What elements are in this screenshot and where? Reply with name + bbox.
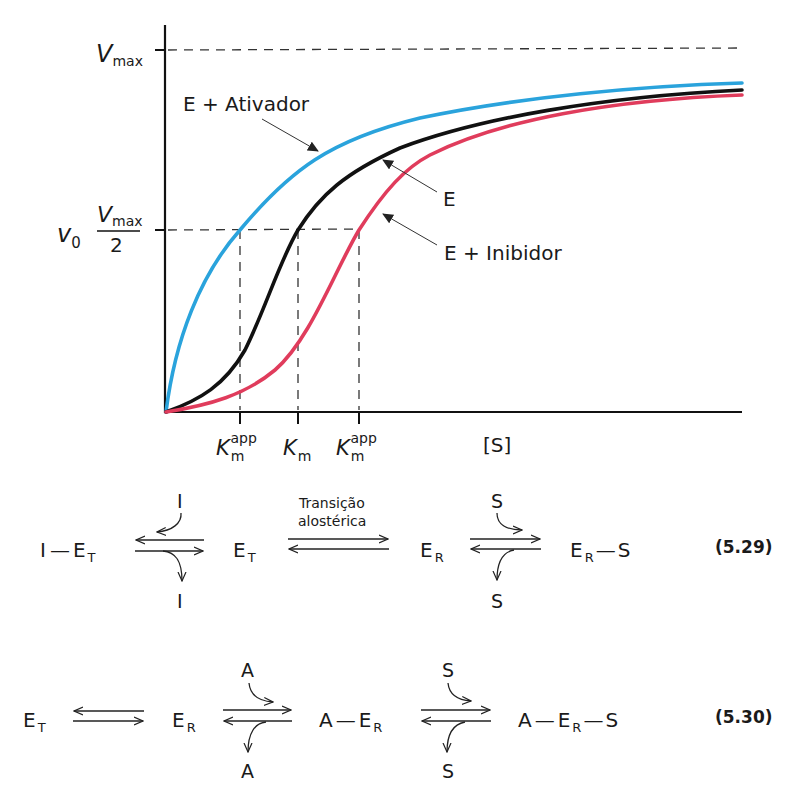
species-i-et: I—ET (40, 538, 96, 565)
x-tick-label-km-app-activator: Kmapp (216, 430, 257, 464)
ligand-s-in-arrow (497, 513, 522, 530)
ligand-i-out: I (177, 590, 183, 612)
species-et: ET (233, 538, 256, 565)
species-er-2: ER (172, 708, 196, 735)
x-tick-label-km: Km (283, 436, 311, 464)
ligand-i-in: I (177, 490, 183, 512)
ligand-s-in-arrow-2 (448, 683, 471, 701)
transition-label-line1: Transição (298, 495, 365, 511)
annotation-enzyme: E (443, 187, 456, 211)
ligand-a-out: A (241, 760, 254, 782)
y-tick-label-half-vmax-numerator: Vmax (97, 202, 143, 229)
ligand-a-in: A (241, 659, 254, 681)
species-er-s: ER—S (570, 538, 630, 565)
transition-label-line2: alostérica (298, 513, 366, 529)
ligand-s-in-2: S (442, 659, 454, 681)
y-tick-label-vmax: Vmax (96, 40, 143, 69)
x-axis-label: [S] (483, 433, 511, 457)
equation-5-29: I—ET I I ET Transição alostérica ER S S … (40, 490, 772, 612)
equation-5-30: ET ER A A A—ER S S A—ER—S (5.30) (23, 659, 772, 782)
equation-number-5-29: (5.29) (715, 537, 772, 557)
ligand-a-in-arrow (249, 683, 273, 702)
ligand-s-in: S (491, 490, 503, 512)
species-er: ER (420, 538, 444, 565)
ligand-s-out-arrow (497, 550, 514, 580)
ligand-s-out-2: S (442, 760, 454, 782)
x-tick-label-km-app-inhibitor: Kmapp (336, 430, 377, 464)
ligand-s-out: S (491, 590, 503, 612)
half-vmax-reference-line (168, 229, 359, 230)
annotation-activator-arrow (262, 119, 318, 151)
ligand-s-out-arrow-2 (447, 722, 465, 752)
ligand-i-out-arrow (163, 551, 182, 581)
annotation-inhibitor-arrow (383, 214, 437, 245)
species-et-2: ET (23, 708, 46, 735)
y-tick-label-half-vmax-denominator: 2 (110, 233, 123, 257)
annotation-inhibitor: E + Inibidor (444, 241, 562, 265)
species-a-er: A—ER (319, 708, 382, 735)
y-axis-symbol-v0: v0 (57, 220, 81, 252)
vmax-reference-line (168, 48, 742, 50)
figure: Vmax v0 Vmax 2 Kmapp Km Kmapp [S] E + At… (0, 0, 809, 811)
annotation-activator: E + Ativador (183, 92, 310, 116)
ligand-a-out-arrow (248, 722, 266, 752)
equation-number-5-30: (5.30) (715, 707, 772, 727)
saturation-chart: Vmax v0 Vmax 2 Kmapp Km Kmapp [S] E + At… (57, 25, 742, 464)
species-a-er-s: A—ER—S (518, 708, 618, 735)
ligand-i-in-arrow (157, 513, 181, 532)
